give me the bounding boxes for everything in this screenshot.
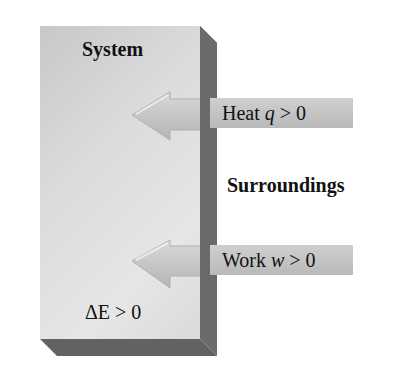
heat-tag-text: Heat [222, 102, 265, 124]
delta-e-symbol: ΔE [85, 301, 110, 323]
work-variable: w [271, 249, 284, 271]
heat-tag: Heat q > 0 [210, 98, 353, 128]
work-relation: > 0 [284, 249, 315, 271]
system-box [40, 26, 200, 339]
heat-relation: > 0 [275, 102, 306, 124]
energy-relation: > 0 [110, 301, 141, 323]
surroundings-label: Surroundings [227, 174, 344, 197]
energy-change-label: ΔE > 0 [85, 301, 141, 324]
work-tag-text: Work [222, 249, 271, 271]
work-tag: Work w > 0 [210, 245, 353, 275]
diagram-canvas: System Surroundings ΔE > 0 Heat q > 0 Wo… [0, 0, 396, 377]
heat-variable: q [265, 102, 275, 124]
system-label: System [82, 38, 143, 61]
